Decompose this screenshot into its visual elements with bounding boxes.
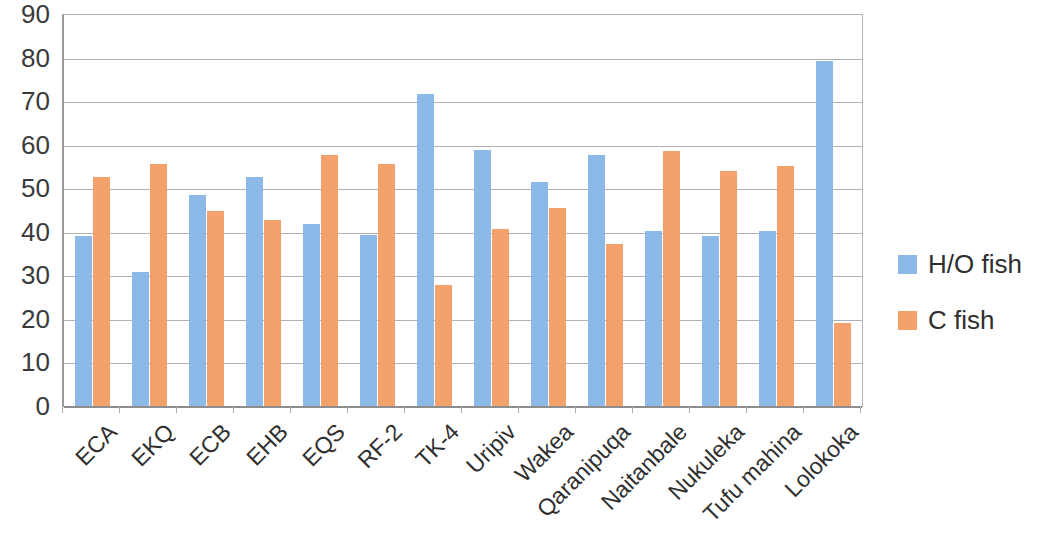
bar-group [805, 15, 862, 407]
bar-group [178, 15, 235, 407]
legend: H/O fishC fish [898, 236, 1041, 348]
bar-c-fish [378, 164, 395, 407]
bar-ho-fish [588, 155, 605, 407]
bar-ho-fish [360, 235, 377, 407]
bar-c-fish [150, 164, 167, 407]
bar-group [634, 15, 691, 407]
y-tick-label: 0 [36, 393, 50, 419]
legend-item[interactable]: H/O fish [898, 236, 1041, 292]
x-category-label-text: ECA [71, 420, 121, 470]
y-tick-label: 20 [21, 306, 50, 332]
bar-chart: 9080706050403020100 ECAEKQECBEHBEQSRF-2T… [0, 0, 1041, 559]
bar-ho-fish [246, 177, 263, 407]
x-tick [62, 406, 63, 413]
bar-ho-fish [75, 236, 92, 407]
bar-ho-fish [816, 61, 833, 407]
bar-group [349, 15, 406, 407]
x-axis-category-labels: ECAEKQECBEHBEQSRF-2TK-4UripivWakeaQarani… [62, 414, 860, 559]
x-category-label-text: ECB [185, 420, 235, 470]
bar-ho-fish [303, 224, 320, 407]
bar-c-fish [321, 155, 338, 407]
bar-group [406, 15, 463, 407]
bar-c-fish [264, 220, 281, 407]
bar-ho-fish [417, 94, 434, 407]
y-tick-label: 50 [21, 175, 50, 201]
x-category-label-text: EHB [242, 420, 292, 470]
bar-c-fish [549, 208, 566, 407]
bar-group [235, 15, 292, 407]
y-tick-label: 70 [21, 88, 50, 114]
bar-ho-fish [189, 195, 206, 407]
y-tick-label: 40 [21, 219, 50, 245]
legend-swatch-icon [898, 311, 917, 330]
bar-ho-fish [531, 182, 548, 407]
bar-ho-fish [474, 150, 491, 407]
legend-swatch-icon [898, 255, 917, 274]
bars-layer [64, 15, 862, 407]
x-category-label-text: EQS [298, 420, 349, 471]
bar-group [121, 15, 178, 407]
bar-group [520, 15, 577, 407]
bar-group [577, 15, 634, 407]
legend-label: H/O fish [928, 251, 1022, 277]
bar-ho-fish [132, 272, 149, 407]
bar-group [292, 15, 349, 407]
bar-group [64, 15, 121, 407]
legend-label: C fish [928, 307, 994, 333]
x-category-label-text: TK-4 [411, 420, 463, 472]
y-tick-label: 10 [21, 349, 50, 375]
y-tick-label: 30 [21, 262, 50, 288]
bar-c-fish [492, 229, 509, 407]
bar-c-fish [435, 285, 452, 407]
bar-group [463, 15, 520, 407]
y-tick-label: 90 [21, 1, 50, 27]
legend-item[interactable]: C fish [898, 292, 1041, 348]
plot-area [62, 14, 863, 407]
x-category-label-text: RF-2 [353, 420, 405, 472]
y-axis-tick-labels: 9080706050403020100 [0, 0, 56, 420]
bar-c-fish [207, 211, 224, 407]
y-tick-label: 60 [21, 132, 50, 158]
y-tick-label: 80 [21, 45, 50, 71]
bar-c-fish [93, 177, 110, 407]
x-category-label-text: EKQ [127, 420, 178, 471]
